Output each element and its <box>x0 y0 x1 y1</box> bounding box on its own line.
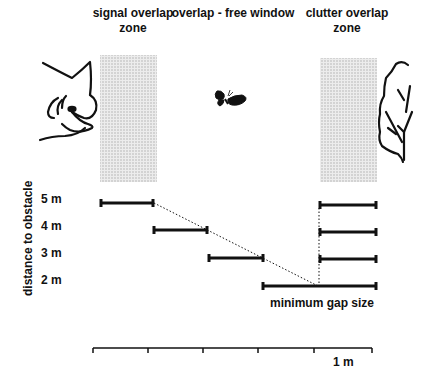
y-axis-label: distance to obstacle <box>21 181 35 296</box>
tick-3m: 3 m <box>41 246 62 260</box>
bar-4m-clutter <box>320 228 376 236</box>
bat-head-icon <box>40 62 96 140</box>
bar-3m-clutter <box>320 255 376 263</box>
signal-boundary-dotted-line <box>154 203 318 286</box>
foliage-leaf-icon <box>379 62 412 162</box>
bar-5m-clutter <box>320 201 376 209</box>
echolocation-diagram <box>0 0 434 377</box>
tick-5m: 5 m <box>41 192 62 206</box>
tick-4m: 4 m <box>41 219 62 233</box>
scale-bar-label: 1 m <box>333 355 354 369</box>
bar-4m-signal <box>154 226 207 234</box>
tick-2m: 2 m <box>41 273 62 287</box>
clutter-overlap-bars <box>320 201 376 263</box>
minimum-gap-size-label: minimum gap size <box>270 296 374 310</box>
bar-3m-signal <box>209 254 263 262</box>
clutter-overlap-zone <box>320 58 377 182</box>
bar-5m-signal <box>101 199 153 207</box>
signal-overlap-bars <box>101 199 376 290</box>
signal-overlap-zone <box>100 55 157 182</box>
moth-icon <box>215 90 246 106</box>
scale-bar <box>93 348 372 353</box>
